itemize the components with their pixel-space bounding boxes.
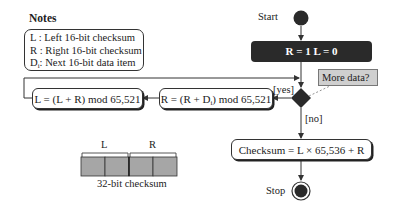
right-bracket-icon (130, 153, 176, 157)
note-item-l: L : Left 16-bit checksum (30, 32, 143, 45)
right-half-label: R (149, 139, 156, 150)
note-item-d: Di: Next 16-bit data item (30, 57, 143, 73)
checksum-cells (81, 157, 177, 176)
left-half-label: L (101, 139, 107, 150)
notes-box: L : Left 16-bit checksum R : Right 16-bi… (24, 29, 144, 71)
left-bracket-icon (82, 153, 128, 157)
checksum-node: Checksum = L × 65,536 + R (231, 139, 372, 160)
notes-title: Notes (29, 12, 56, 24)
checksum-caption: 32-bit checksum (97, 178, 167, 189)
r-update-node: R = (R + Di) mod 65,521 (159, 88, 273, 109)
note-item-r: R : Right 16-bit checksum (30, 45, 143, 58)
l-update-node: L = (L + R) mod 65,521 (32, 88, 143, 109)
yes-label: [yes] (273, 84, 294, 95)
decision-note: More data? (318, 69, 378, 86)
init-node: R = 1 L = 0 (251, 41, 372, 62)
no-label: [no] (305, 113, 323, 124)
start-label: Start (258, 11, 278, 22)
start-node-icon (294, 11, 309, 26)
decision-diamond-icon (291, 88, 311, 108)
stop-label: Stop (266, 185, 285, 196)
